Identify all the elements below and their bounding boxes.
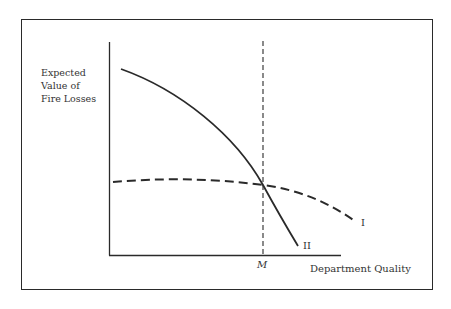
curve-I-label: I <box>361 216 365 229</box>
y-axis-label-line-3: Fire Losses <box>41 92 96 105</box>
y-axis-label-line-2: Value of <box>41 79 96 92</box>
curve-I <box>113 179 356 222</box>
curve-II-label: II <box>303 239 311 252</box>
m-tick-label: M <box>257 258 267 271</box>
y-axis-label: Expected Value of Fire Losses <box>41 66 96 105</box>
x-axis-label: Department Quality <box>310 262 411 275</box>
curve-II <box>121 69 298 246</box>
y-axis-label-line-1: Expected <box>41 66 96 79</box>
